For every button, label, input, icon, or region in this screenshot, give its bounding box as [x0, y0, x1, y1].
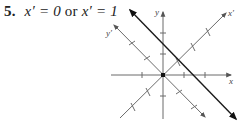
x-prime-axis: x′ [120, 8, 235, 118]
y-axis-label: y [154, 7, 159, 17]
solution-line-x-prime-equals-one [130, 10, 236, 119]
y-axis: y [154, 7, 166, 119]
x-axis-label: x [228, 76, 233, 86]
rotated-axes-diagram: x y x′ y′ [0, 0, 250, 129]
origin-point [161, 73, 165, 77]
y-prime-axis-label: y′ [105, 28, 113, 38]
x-prime-axis-label: x′ [227, 8, 235, 18]
